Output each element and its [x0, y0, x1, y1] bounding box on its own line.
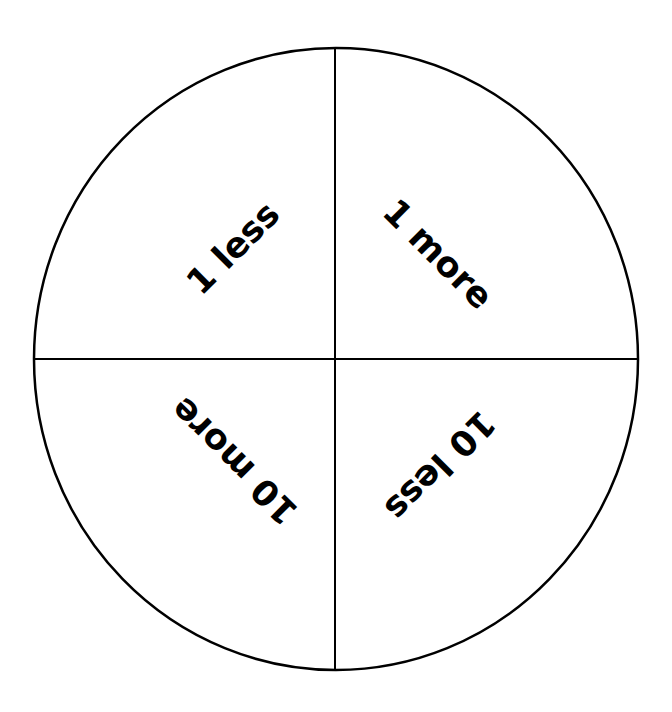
quadrant-label-top-right: 1 more [375, 191, 501, 317]
quadrant-label-bottom-left: 10 more [162, 389, 305, 532]
quadrant-label-top-left: 1 less [179, 194, 288, 303]
spinner-diagram: 1 less 1 more 10 more 10 less [0, 0, 672, 712]
quadrant-label-bottom-right: 10 less [377, 403, 503, 529]
